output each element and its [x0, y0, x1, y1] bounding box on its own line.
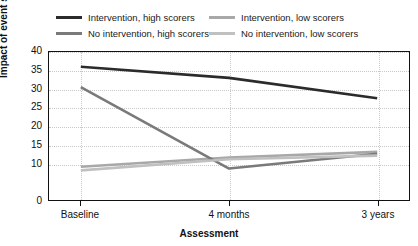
y-tick-label: 25 — [16, 102, 42, 112]
x-tick-mark — [229, 201, 230, 206]
plot-area — [48, 51, 410, 201]
legend-item-no-intervention-low: No intervention, low scorers — [209, 25, 408, 41]
legend-item-no-intervention-high: No intervention, high scorers — [56, 25, 201, 41]
y-tick-label: 15 — [16, 140, 42, 150]
legend-swatch-icon — [56, 16, 82, 19]
x-tick-label: 4 months — [189, 209, 269, 220]
legend-item-label: Intervention, high scorers — [88, 12, 195, 23]
legend-swatch-icon — [209, 16, 235, 19]
legend-item-intervention-low: Intervention, low scorers — [209, 9, 408, 25]
y-tick-label: 35 — [16, 65, 42, 75]
legend-item-label: Intervention, low scorers — [241, 12, 344, 23]
x-tick-mark — [80, 201, 81, 206]
y-tick-label: 10 — [16, 159, 42, 169]
chart-legend: Intervention, high scorers Intervention,… — [56, 9, 408, 41]
series-line — [81, 67, 377, 98]
y-axis-title: Impact of event scale — [0, 0, 9, 78]
plot-inner — [49, 52, 409, 200]
legend-item-label: No intervention, high scorers — [88, 28, 209, 39]
series-lines — [49, 52, 409, 200]
x-axis-title: Assessment — [0, 228, 418, 239]
y-tick-label: 40 — [16, 46, 42, 56]
x-tick-mark — [378, 201, 379, 206]
x-tick-label: 3 years — [338, 209, 418, 220]
legend-swatch-icon — [56, 32, 82, 35]
legend-swatch-icon — [209, 32, 235, 35]
y-tick-label: 0 — [16, 196, 42, 206]
chart-figure: Intervention, high scorers Intervention,… — [0, 0, 418, 246]
legend-item-label: No intervention, low scorers — [241, 28, 358, 39]
x-tick-label: Baseline — [40, 209, 120, 220]
y-tick-label: 30 — [16, 84, 42, 94]
y-tick-label: 20 — [16, 121, 42, 131]
legend-item-intervention-high: Intervention, high scorers — [56, 9, 201, 25]
